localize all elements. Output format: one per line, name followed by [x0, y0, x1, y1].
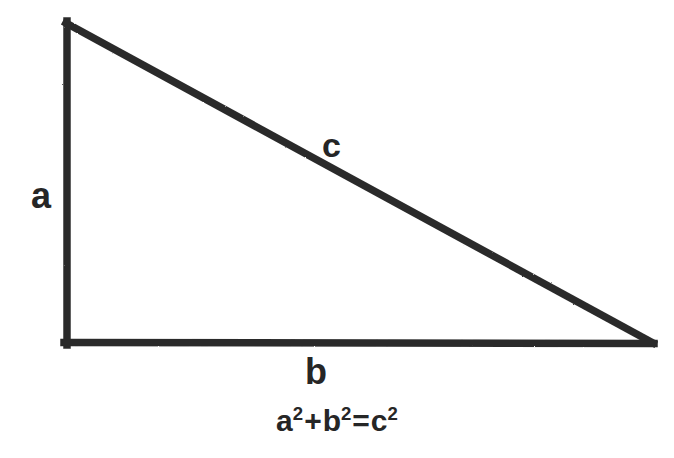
- side-label-c: c: [322, 128, 341, 162]
- side-label-a: a: [31, 178, 51, 214]
- pythagorean-equation: a2+b2=c2: [0, 404, 674, 437]
- pythagorean-theorem-figure: a c b a2+b2=c2: [0, 0, 674, 458]
- equation-a-exponent: 2: [293, 403, 303, 424]
- equation-c-exponent: 2: [388, 403, 398, 424]
- equation-b-exponent: 2: [341, 403, 351, 424]
- equation-term-b: b2: [323, 404, 352, 437]
- side-label-b: b: [305, 354, 327, 390]
- equation-c-base: c: [371, 404, 388, 437]
- triangle-leg-b: [64, 343, 654, 344]
- equation-equals-operator: =: [351, 404, 371, 437]
- right-triangle-graphic: [0, 0, 674, 458]
- equation-plus-operator: +: [303, 404, 323, 437]
- equation-a-base: a: [276, 404, 293, 437]
- equation-term-c: c2: [371, 404, 398, 437]
- triangle-hypotenuse-c: [66, 23, 653, 343]
- equation-b-base: b: [323, 404, 341, 437]
- equation-term-a: a2: [276, 404, 303, 437]
